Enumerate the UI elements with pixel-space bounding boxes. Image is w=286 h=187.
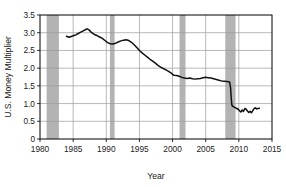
- y-tick-label-1: 0.5: [23, 116, 35, 126]
- y-axis-title: U.S. Money Multiplier: [3, 36, 13, 118]
- x-tick-label-4: 2000: [163, 144, 182, 154]
- x-tick-label-6: 2010: [230, 144, 249, 154]
- x-tick-label-1: 1985: [64, 144, 83, 154]
- y-tick-label-6: 3.0: [23, 28, 35, 38]
- y-tick-label-4: 2.0: [23, 63, 35, 73]
- y-tick-label-7: 3.5: [23, 10, 35, 20]
- x-axis-title: Year: [147, 171, 165, 181]
- x-tick-label-0: 1980: [31, 144, 50, 154]
- x-tick-label-3: 1995: [130, 144, 149, 154]
- y-tick-label-2: 1.0: [23, 99, 35, 109]
- recession-band-0: [47, 15, 59, 139]
- money-multiplier-chart: 00.51.01.52.02.53.03.5 19801985199019952…: [0, 0, 286, 187]
- y-tick-label-0: 0: [30, 134, 35, 144]
- x-tick-label-5: 2005: [196, 144, 215, 154]
- x-tick-label-2: 1990: [97, 144, 116, 154]
- recession-band-3: [225, 15, 235, 139]
- recession-band-1: [110, 15, 115, 139]
- y-tick-label-5: 2.5: [23, 45, 35, 55]
- x-tick-label-7: 2015: [263, 144, 282, 154]
- y-tick-label-3: 1.5: [23, 81, 35, 91]
- chart-figure: 00.51.01.52.02.53.03.5 19801985199019952…: [0, 0, 286, 187]
- plot-area-background: [40, 15, 272, 139]
